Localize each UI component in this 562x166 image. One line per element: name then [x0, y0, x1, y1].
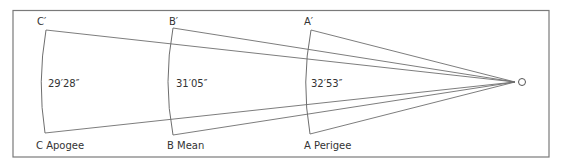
arc-c-apogee	[41, 30, 46, 133]
ray-b-top	[173, 28, 515, 82]
label-a-perigee: A Perigee	[304, 140, 351, 151]
angle-b-mean: 31′05″	[176, 78, 208, 89]
label-b-prime: B′	[169, 16, 179, 27]
angle-a-perigee: 32′53″	[311, 78, 343, 89]
label-c-prime: C′	[37, 16, 47, 27]
label-c-apogee: C Apogee	[36, 140, 84, 151]
diagram-frame	[13, 11, 549, 158]
ray-a-top	[311, 30, 515, 82]
angle-c-apogee: 29′28″	[48, 78, 80, 89]
moon-angular-size-diagram: C′ B′ A′ 29′28″ 31′05″ 32′53″ C Apogee B…	[0, 0, 562, 166]
observer-point-icon	[519, 79, 526, 86]
ray-a-bottom	[310, 82, 515, 134]
ray-b-bottom	[173, 82, 515, 135]
label-b-mean: B Mean	[167, 140, 204, 151]
ray-c-bottom	[45, 82, 515, 133]
label-a-prime: A′	[304, 16, 314, 27]
ray-c-top	[46, 30, 515, 82]
